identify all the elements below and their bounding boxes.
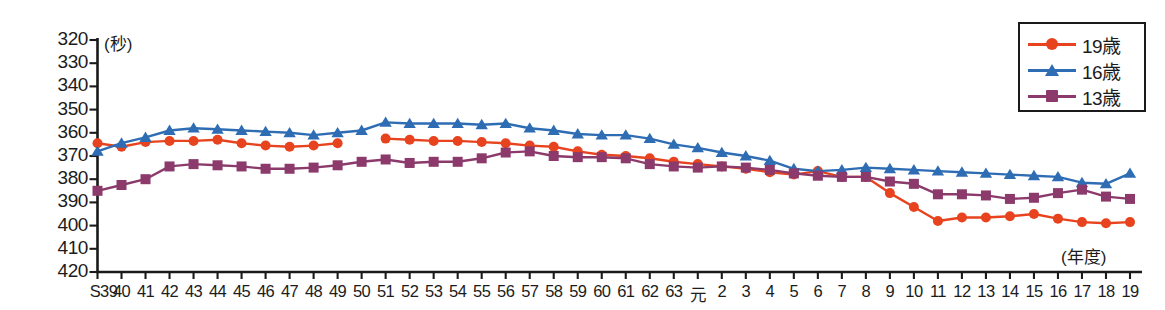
data-point-marker bbox=[669, 161, 679, 171]
data-point-marker bbox=[885, 188, 895, 198]
x-axis-caption: (年度) bbox=[1061, 243, 1106, 268]
legend-swatch-triangle-icon bbox=[1026, 60, 1078, 80]
legend-item-13歳: 13歳 bbox=[1026, 83, 1142, 109]
data-point-marker bbox=[1125, 194, 1135, 204]
legend: 19歳16歳13歳 bbox=[1018, 22, 1146, 112]
y-axis-tick-label: 350 bbox=[28, 98, 88, 120]
legend-swatch-circle-icon bbox=[1026, 34, 1078, 54]
data-point-marker bbox=[381, 154, 391, 164]
data-point-marker bbox=[549, 151, 559, 161]
data-point-marker bbox=[501, 138, 511, 148]
data-point-marker bbox=[909, 179, 919, 189]
data-point-marker bbox=[1101, 192, 1111, 202]
data-point-marker bbox=[885, 177, 895, 187]
data-point-marker bbox=[933, 189, 943, 199]
y-axis-tick-label: 330 bbox=[28, 51, 88, 73]
data-point-marker bbox=[573, 152, 583, 162]
data-point-marker bbox=[813, 171, 823, 181]
data-point-marker bbox=[1053, 188, 1063, 198]
data-point-marker bbox=[429, 157, 439, 167]
data-point-marker bbox=[981, 212, 991, 222]
data-point-marker bbox=[381, 134, 391, 144]
legend-marker-circle-icon bbox=[1046, 38, 1058, 50]
data-point-marker bbox=[1077, 217, 1087, 227]
data-point-marker bbox=[621, 153, 631, 163]
data-point-marker bbox=[117, 180, 127, 190]
data-point-marker bbox=[549, 142, 559, 152]
data-point-marker bbox=[213, 160, 223, 170]
data-point-marker bbox=[909, 202, 919, 212]
legend-item-label: 16歳 bbox=[1082, 57, 1121, 84]
series-path bbox=[98, 151, 1131, 199]
data-point-marker bbox=[333, 160, 343, 170]
y-axis-tick-label: 420 bbox=[28, 260, 88, 282]
y-axis-tick-label: 410 bbox=[28, 237, 88, 259]
y-axis-unit-label: (秒) bbox=[104, 30, 132, 55]
data-point-marker bbox=[957, 189, 967, 199]
legend-item-19歳: 19歳 bbox=[1026, 31, 1142, 57]
data-point-marker bbox=[525, 146, 535, 156]
data-point-marker bbox=[1005, 194, 1015, 204]
data-point-marker bbox=[1077, 185, 1087, 195]
data-point-marker bbox=[1125, 217, 1135, 227]
data-point-marker bbox=[405, 158, 415, 168]
data-point-marker bbox=[309, 163, 319, 173]
legend-item-label: 19歳 bbox=[1082, 31, 1121, 58]
data-point-marker bbox=[165, 161, 175, 171]
chart-root: (秒) (年度) 3203303403503603703803904004104… bbox=[0, 0, 1165, 310]
data-point-marker bbox=[213, 135, 223, 145]
data-point-marker bbox=[861, 172, 871, 182]
data-point-marker bbox=[1005, 211, 1015, 221]
data-point-marker bbox=[1124, 168, 1136, 178]
data-point-marker bbox=[189, 136, 199, 146]
data-point-marker bbox=[1029, 193, 1039, 203]
series-path bbox=[98, 139, 1131, 224]
data-point-marker bbox=[189, 159, 199, 169]
data-point-marker bbox=[309, 141, 319, 151]
y-axis-tick-label: 380 bbox=[28, 167, 88, 189]
chart-plot-area bbox=[0, 0, 1165, 310]
data-point-marker bbox=[597, 152, 607, 162]
data-point-marker bbox=[789, 168, 799, 178]
data-point-marker bbox=[933, 216, 943, 226]
series-path bbox=[98, 122, 1131, 183]
data-point-marker bbox=[165, 136, 175, 146]
data-point-marker bbox=[501, 148, 511, 158]
data-point-marker bbox=[237, 161, 247, 171]
data-point-marker bbox=[477, 153, 487, 163]
y-axis-tick-label: 320 bbox=[28, 28, 88, 50]
y-axis-tick-label: 370 bbox=[28, 144, 88, 166]
data-point-marker bbox=[285, 164, 295, 174]
data-point-marker bbox=[261, 141, 271, 151]
data-point-marker bbox=[981, 190, 991, 200]
series-line-16歳 bbox=[91, 116, 1136, 188]
data-point-marker bbox=[957, 212, 967, 222]
legend-swatch-square-icon bbox=[1026, 86, 1078, 106]
data-point-marker bbox=[357, 157, 367, 167]
data-point-marker bbox=[645, 159, 655, 169]
data-point-marker bbox=[1029, 209, 1039, 219]
data-point-marker bbox=[837, 172, 847, 182]
data-point-marker bbox=[717, 161, 727, 171]
legend-marker-square-icon bbox=[1046, 90, 1058, 102]
data-point-marker bbox=[693, 163, 703, 173]
data-point-marker bbox=[333, 138, 343, 148]
data-point-marker bbox=[285, 142, 295, 152]
y-axis-tick-label: 340 bbox=[28, 74, 88, 96]
data-point-marker bbox=[405, 135, 415, 145]
y-axis-tick-label: 360 bbox=[28, 121, 88, 143]
data-point-marker bbox=[453, 136, 463, 146]
series-line-19歳 bbox=[93, 134, 1136, 229]
data-point-marker bbox=[477, 137, 487, 147]
data-point-marker bbox=[261, 164, 271, 174]
data-point-marker bbox=[1053, 214, 1063, 224]
legend-marker-triangle-icon bbox=[1045, 64, 1059, 76]
y-axis-tick-label: 390 bbox=[28, 190, 88, 212]
x-axis-tick-label: 19 bbox=[1115, 282, 1145, 301]
y-axis-tick-label: 400 bbox=[28, 214, 88, 236]
data-point-marker bbox=[93, 186, 103, 196]
data-point-marker bbox=[453, 157, 463, 167]
data-point-marker bbox=[237, 138, 247, 148]
data-point-marker bbox=[1101, 218, 1111, 228]
data-point-marker bbox=[765, 165, 775, 175]
